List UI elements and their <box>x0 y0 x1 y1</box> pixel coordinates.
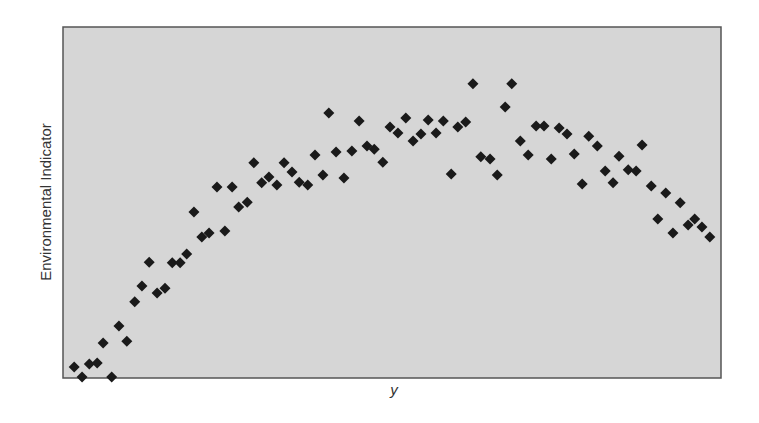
scatter-chart: y Environmental Indicator <box>0 0 759 423</box>
x-axis-label: y <box>389 381 399 398</box>
plot-area <box>63 27 721 378</box>
y-axis-label: Environmental Indicator <box>37 123 54 281</box>
